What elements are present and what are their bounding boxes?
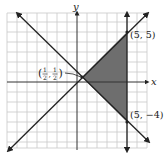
svg-text:1: 1 [53, 66, 57, 73]
x-axis-label: x [151, 76, 157, 87]
svg-text:(: ( [38, 67, 42, 80]
label-point-half-half: ( 1 2 , 1 2 ) [38, 66, 63, 81]
svg-text:2: 2 [43, 74, 47, 81]
svg-text:2: 2 [53, 74, 57, 81]
svg-text:1: 1 [43, 66, 47, 73]
shaded-region [82, 32, 127, 122]
svg-text:): ) [59, 67, 63, 80]
label-point-5-5: (5, 5) [130, 29, 156, 40]
y-axis-label: y [72, 1, 79, 12]
svg-text:,: , [49, 70, 52, 79]
vertex-point [125, 30, 128, 33]
vertex-point [125, 120, 128, 123]
graph: y x (5, 5) (5, −4) ( 1 2 , 1 2 ) [0, 0, 166, 154]
label-point-5-neg4: (5, −4) [130, 109, 164, 120]
